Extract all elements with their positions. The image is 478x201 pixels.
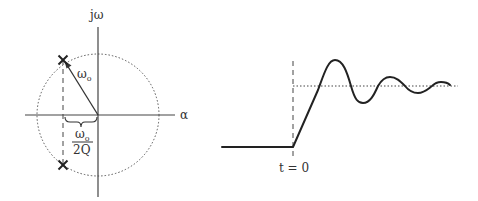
real-axis-label: α [180, 108, 188, 122]
diagram-canvas: jω α ωo ωo 2Q t = 0 [0, 0, 478, 201]
distance-label-numerator: ωo [75, 127, 90, 143]
distance-label-denominator: 2Q [73, 143, 91, 157]
time-zero-label: t = 0 [279, 161, 309, 175]
radius-label: ωo [77, 67, 92, 83]
step-response-plot: t = 0 [222, 60, 458, 175]
pole-zero-plot: jω α ωo ωo 2Q [25, 8, 188, 197]
imaginary-axis-label: jω [88, 8, 104, 22]
distance-brace [65, 117, 97, 127]
response-curve [222, 60, 450, 147]
